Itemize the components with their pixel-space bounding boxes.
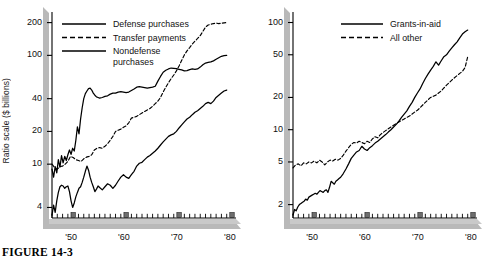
legend-label: Defense purchases: [113, 19, 189, 29]
y-tick-label: 100: [12, 49, 42, 59]
legend-label: purchases: [113, 57, 154, 67]
y-tick-label: 20: [12, 125, 42, 135]
x-tick-label: '60: [118, 232, 130, 242]
y-tick-label: 20: [253, 91, 283, 101]
y-tick-label: 2: [253, 199, 283, 209]
y-tick-label: 10: [253, 124, 283, 134]
legend-label: Nondefense: [113, 46, 161, 56]
x-tick-label: '50: [306, 232, 318, 242]
series-line: [293, 30, 468, 215]
x-tick-label: '60: [359, 232, 371, 242]
y-tick-label: 5: [253, 156, 283, 166]
chart-panel-left: Ratio scale ($ billions) Defense purchas…: [0, 0, 241, 240]
y-tick-label: 4: [12, 201, 42, 211]
series-line: [52, 55, 227, 177]
x-tick-label: '70: [171, 232, 183, 242]
y-tick-label: 200: [12, 17, 42, 27]
y-tick-label: 50: [253, 49, 283, 59]
x-tick-label: '70: [412, 232, 424, 242]
legend-label: Transfer payments: [113, 33, 187, 43]
legend-label: All other: [390, 33, 422, 43]
legend-label: Grants-in-aid: [390, 19, 441, 29]
y-tick-label: 100: [253, 17, 283, 27]
x-tick-label: '50: [65, 232, 77, 242]
x-tick-label: '80: [465, 232, 477, 242]
x-tick-label: '80: [224, 232, 236, 242]
y-tick-label: 10: [12, 158, 42, 168]
figure-caption: FIGURE 14-3: [2, 246, 73, 258]
series-line: [293, 57, 468, 168]
chart-panel-right: Ratio scale ($ billions) Grants-in-aidAl…: [241, 0, 482, 240]
series-line: [52, 23, 227, 170]
figure-14-3: Ratio scale ($ billions) Defense purchas…: [0, 0, 482, 264]
y-tick-label: 40: [12, 93, 42, 103]
y-axis-label-left: Ratio scale ($ billions): [1, 78, 11, 164]
series-line: [52, 90, 227, 215]
